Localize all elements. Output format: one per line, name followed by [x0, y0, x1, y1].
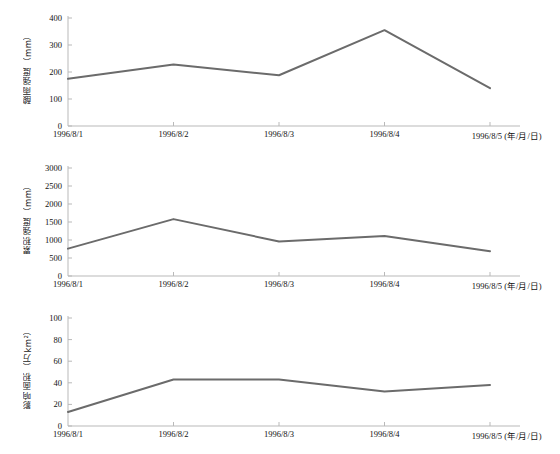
figure-canvas: 酸雨强度（mm）01002003004001996/8/11996/8/2199… [0, 0, 560, 454]
chart-affected-area-x-tick-label: 1996/8/4 [369, 429, 399, 439]
chart-affected-area-series-line [68, 380, 490, 412]
chart-accumulation-y-tick-label: 3000 [45, 163, 62, 173]
chart-intensity-y-tick-label: 300 [49, 40, 62, 50]
chart-affected-area-x-tick-label: 1996/8/2 [158, 429, 188, 439]
chart-affected-area-y-tick-label: 60 [54, 356, 63, 366]
chart-affected-area-y-tick-label: 20 [54, 399, 63, 409]
chart-accumulation-y-tick-label: 1500 [45, 217, 62, 227]
chart-intensity-x-tick-label: 1996/8/2 [158, 129, 188, 139]
chart-affected-area-y-tick-label: 100 [49, 313, 62, 323]
chart-accumulation-x-tick-label: 1996/8/2 [158, 279, 188, 289]
chart-affected-area-x-tick-label: 1996/8/5 (年/月/日) [472, 429, 542, 441]
chart-accumulation-series-line [68, 219, 490, 251]
chart-intensity-x-tick-label: 1996/8/4 [369, 129, 399, 139]
chart-affected-area-plot: 020406080100 [0, 308, 560, 438]
chart-affected-area-x-axis-labels: 1996/8/11996/8/21996/8/31996/8/41996/8/5… [0, 426, 560, 446]
chart-accumulation-x-tick-label: 1996/8/4 [369, 279, 399, 289]
chart-intensity-x-tick-label: 1996/8/5 (年/月/日) [472, 129, 542, 141]
chart-intensity-y-tick-label: 400 [49, 13, 62, 23]
chart-accumulation-y-tick-label: 2500 [45, 181, 62, 191]
chart-intensity-x-tick-label: 1996/8/3 [264, 129, 294, 139]
chart-panel-intensity: 酸雨强度（mm）01002003004001996/8/11996/8/2199… [0, 8, 560, 148]
chart-accumulation-x-tick-label: 1996/8/1 [53, 279, 83, 289]
chart-intensity-series-line [68, 30, 490, 88]
chart-affected-area-x-tick-label: 1996/8/3 [264, 429, 294, 439]
chart-accumulation-y-tick-label: 1000 [45, 235, 62, 245]
chart-intensity-y-tick-label: 200 [49, 67, 62, 77]
chart-accumulation-x-axis-labels: 1996/8/11996/8/21996/8/31996/8/41996/8/5… [0, 276, 560, 296]
chart-accumulation-y-tick-label: 500 [49, 253, 62, 263]
chart-accumulation-plot: 050010001500200025003000 [0, 158, 560, 288]
chart-accumulation-x-tick-label: 1996/8/5 (年/月/日) [472, 279, 542, 291]
chart-intensity-x-tick-label: 1996/8/1 [53, 129, 83, 139]
chart-affected-area-y-tick-label: 80 [54, 335, 63, 345]
chart-affected-area-x-tick-label: 1996/8/1 [53, 429, 83, 439]
chart-affected-area-y-tick-label: 40 [54, 378, 63, 388]
chart-panel-accumulation: 累积强度（mm）0500100015002000250030001996/8/1… [0, 158, 560, 298]
chart-intensity-x-axis-labels: 1996/8/11996/8/21996/8/31996/8/41996/8/5… [0, 126, 560, 146]
chart-accumulation-x-tick-label: 1996/8/3 [264, 279, 294, 289]
chart-panel-affected-area: 影响面积（万km²）0204060801001996/8/11996/8/219… [0, 308, 560, 448]
chart-intensity-plot: 0100200300400 [0, 8, 560, 138]
chart-accumulation-y-tick-label: 2000 [45, 199, 62, 209]
chart-intensity-y-tick-label: 100 [49, 94, 62, 104]
